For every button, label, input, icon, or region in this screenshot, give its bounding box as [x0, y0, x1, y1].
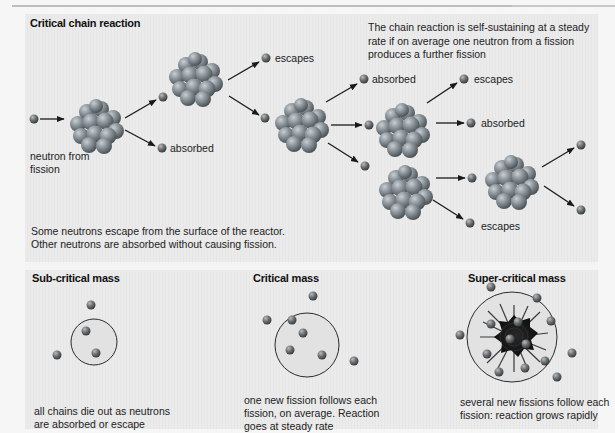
- label-escapes-2: escapes: [474, 73, 513, 86]
- label-absorbed-3: absorbed: [481, 117, 525, 130]
- nucleus-1: [70, 99, 124, 154]
- subcritical-title: Sub-critical mass: [32, 272, 120, 284]
- subcritical-diagram: [53, 301, 118, 366]
- label-absorbed-2: absorbed: [372, 73, 416, 86]
- subcritical-caption-1: all chains die out as neutrons: [34, 405, 170, 418]
- footnote-line-1: Some neutrons escape from the surface of…: [31, 225, 285, 238]
- label-escapes-1: escapes: [275, 52, 314, 65]
- supercritical-diagram: [456, 283, 577, 383]
- critical-caption-1: one new fission follows each: [244, 394, 377, 407]
- nucleus-6: [485, 155, 539, 210]
- footnote-line-2: Other neutrons are absorbed without caus…: [31, 238, 277, 251]
- critical-diagram: [263, 292, 359, 378]
- nucleus-5: [379, 165, 433, 220]
- nucleus-3: [275, 98, 329, 153]
- critical-caption-3: goes at steady rate: [244, 420, 333, 433]
- label-absorbed-1: absorbed: [170, 142, 214, 155]
- nucleus-2: [169, 52, 223, 107]
- supercritical-caption-1: several new fissions follow each: [460, 396, 609, 409]
- label-neutron-from-fission-2: fission: [30, 163, 60, 176]
- subcritical-caption-2: are absorbed or escape: [34, 418, 145, 431]
- supercritical-title: Super-critical mass: [468, 272, 566, 284]
- supercritical-caption-2: fission: reaction grows rapidly: [460, 409, 598, 422]
- nucleus-4: [376, 103, 430, 158]
- label-neutron-from-fission-1: neutron from: [30, 150, 90, 163]
- chain-reaction-title: Critical chain reaction: [30, 17, 140, 29]
- label-escapes-3: escapes: [481, 220, 520, 233]
- critical-caption-2: fission, on average. Reaction: [244, 407, 379, 420]
- chain-reaction-description: The chain reaction is self-sustaining at…: [368, 21, 603, 62]
- critical-title: Critical mass: [253, 272, 319, 284]
